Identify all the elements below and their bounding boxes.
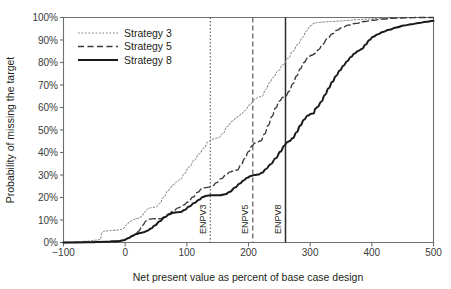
x-axis-title: Net present value as percent of base cas… <box>133 271 364 283</box>
y-tick-label: 70% <box>38 80 58 91</box>
legend-label-strategy-3: Strategy 3 <box>124 27 172 39</box>
reference-line-label-enpv8: ENPV8 <box>273 204 283 234</box>
y-tick-label: 90% <box>38 35 58 46</box>
y-tick-label: 50% <box>38 125 58 136</box>
y-tick-label: 10% <box>38 215 58 226</box>
x-tick-label: −100 <box>52 247 75 258</box>
y-tick-label: 40% <box>38 147 58 158</box>
x-tick-label: 100 <box>178 247 195 258</box>
y-tick-label: 80% <box>38 57 58 68</box>
cumulative-distribution-chart: 0%10%20%30%40%50%60%70%80%90%100% −10001… <box>0 0 451 289</box>
y-tick-label: 30% <box>38 170 58 181</box>
reference-line-label-enpv5: ENPV5 <box>240 204 250 234</box>
x-tick-label: 0 <box>122 247 128 258</box>
chart-container: 0%10%20%30%40%50%60%70%80%90%100% −10001… <box>0 0 451 289</box>
y-tick-label: 100% <box>32 12 58 23</box>
chart-legend: Strategy 3Strategy 5Strategy 8 <box>78 27 172 66</box>
x-tick-label: 300 <box>302 247 319 258</box>
x-tick-label: 400 <box>363 247 380 258</box>
x-tick-label: 500 <box>425 247 442 258</box>
y-axis-title: Probability of missing the target <box>4 57 16 204</box>
y-tick-label: 20% <box>38 192 58 203</box>
reference-line-label-enpv3: ENPV3 <box>198 204 208 234</box>
legend-label-strategy-8: Strategy 8 <box>124 54 172 66</box>
legend-label-strategy-5: Strategy 5 <box>124 40 172 52</box>
chart-background <box>0 0 451 289</box>
x-tick-label: 200 <box>240 247 257 258</box>
y-tick-label: 60% <box>38 102 58 113</box>
